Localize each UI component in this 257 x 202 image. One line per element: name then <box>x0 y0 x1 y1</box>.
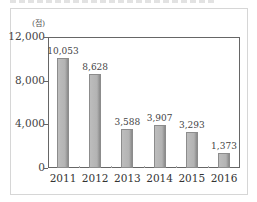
y-tick-label: 4,000 <box>15 117 45 129</box>
bar-2014 <box>154 125 166 168</box>
y-tick-label: 8,000 <box>15 74 45 86</box>
x-tick-mark <box>79 166 80 168</box>
bar-2015 <box>186 132 198 168</box>
y-tick-label: 0 <box>38 161 45 173</box>
x-tick-label: 2011 <box>47 172 79 184</box>
bar-value-label: 3,293 <box>172 120 212 130</box>
x-tick-label: 2014 <box>144 172 176 184</box>
y-tick-mark <box>44 124 48 125</box>
x-tick-label: 2016 <box>208 172 240 184</box>
x-tick-mark <box>208 166 209 168</box>
bar-2013 <box>121 129 133 168</box>
x-tick-mark <box>144 166 145 168</box>
y-tick-mark <box>44 168 48 169</box>
x-tick-label: 2015 <box>176 172 208 184</box>
bar-2016 <box>218 153 230 168</box>
x-tick-mark <box>111 166 112 168</box>
y-tick-label: 12,000 <box>8 30 45 42</box>
x-tick-label: 2012 <box>79 172 111 184</box>
x-tick-label: 2013 <box>111 172 143 184</box>
y-tick-mark <box>44 81 48 82</box>
cropped-text-strip <box>10 0 215 3</box>
y-tick-mark <box>44 37 48 38</box>
bar-value-label: 8,628 <box>75 62 115 72</box>
x-tick-mark <box>176 166 177 168</box>
bar-value-label: 1,373 <box>204 141 244 151</box>
bar-2011 <box>57 58 69 168</box>
y-axis-unit-label: (점) <box>32 17 45 28</box>
bar-value-label: 10,053 <box>43 46 83 56</box>
bar-2012 <box>89 74 101 168</box>
